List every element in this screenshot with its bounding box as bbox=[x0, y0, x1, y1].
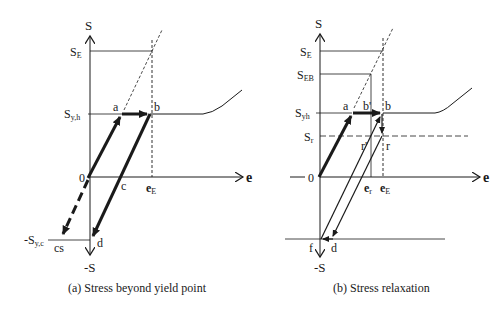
unloading-arrow-b-d bbox=[93, 114, 150, 236]
neg-s-axis-label: -S bbox=[84, 260, 96, 275]
point-d-label: d bbox=[331, 241, 337, 255]
loading-arrow-0-a bbox=[88, 117, 120, 178]
point-a-label: a bbox=[113, 100, 119, 114]
point-f-label: f bbox=[309, 241, 313, 255]
s-axis-label: S bbox=[85, 18, 92, 33]
caption-b: (b) Stress relaxation bbox=[333, 281, 430, 295]
er-label: er bbox=[364, 181, 372, 196]
stress-strain-curve bbox=[383, 88, 472, 113]
neg-s-axis-label: -S bbox=[314, 260, 326, 275]
ee-label: eE bbox=[380, 181, 390, 196]
elastic-extension-dashed bbox=[354, 28, 393, 108]
origin-label: 0 bbox=[79, 171, 85, 185]
caption-a: (a) Stress beyond yield point bbox=[68, 281, 207, 295]
ee-label: eE bbox=[146, 181, 156, 196]
panel-a: S -S e 0 SE Sy,h eE -Sy,c a b c d bbox=[24, 18, 252, 295]
point-r-label: r bbox=[386, 139, 390, 153]
point-b-label: b bbox=[154, 100, 160, 114]
syh-label: Sy,h bbox=[64, 107, 80, 122]
s-axis-label: S bbox=[315, 16, 322, 31]
point-r-prime-label: r' bbox=[361, 139, 367, 153]
point-d-label: d bbox=[97, 236, 103, 250]
point-cs-label: cs bbox=[54, 241, 64, 255]
se-label: SE bbox=[300, 45, 312, 60]
syh-label: Syh bbox=[295, 106, 310, 121]
seb-label: SEB bbox=[297, 68, 314, 83]
compressive-path-dashed bbox=[63, 180, 88, 234]
sr-label: Sr bbox=[304, 130, 314, 145]
point-c-label: c bbox=[121, 179, 126, 193]
e-axis-label: e bbox=[483, 170, 489, 185]
se-label: SE bbox=[70, 45, 82, 60]
stress-strain-curve bbox=[150, 90, 242, 114]
unloading-arrow-r-d bbox=[333, 136, 382, 236]
point-a-label: a bbox=[343, 99, 349, 113]
point-b-prime-label: b' bbox=[363, 99, 371, 113]
e-axis-label: e bbox=[246, 170, 252, 185]
elastic-extension-dashed bbox=[124, 30, 162, 110]
reloading-arrow-f-b bbox=[321, 117, 380, 239]
syc-label: -Sy,c bbox=[24, 233, 44, 248]
loading-arrow-0-a bbox=[319, 116, 351, 177]
origin-label: 0 bbox=[308, 171, 314, 185]
point-b-label: b bbox=[385, 99, 391, 113]
stress-strain-diagram: S -S e 0 SE Sy,h eE -Sy,c a b c d bbox=[0, 0, 496, 309]
panel-b: S -S e 0 SE SEB Syh Sr er eE bbox=[285, 16, 489, 295]
